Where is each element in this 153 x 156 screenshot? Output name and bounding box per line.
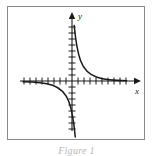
hyperbola-plot: y x	[8, 7, 144, 139]
y-axis-label: y	[77, 11, 82, 21]
x-axis-arrowhead	[134, 78, 141, 84]
figure-container: y x Figure 1	[0, 0, 153, 156]
figure-frame: y x	[7, 6, 145, 140]
x-axis-label: x	[134, 86, 139, 96]
y-axis-arrowhead	[69, 12, 75, 19]
figure-caption: Figure 1	[0, 145, 153, 156]
curve-branch-quadrant-1	[74, 26, 126, 81]
curve-branch-quadrant-3	[23, 82, 75, 137]
